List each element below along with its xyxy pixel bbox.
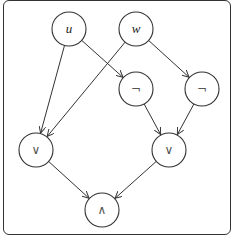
node-label: ¬ (131, 82, 141, 96)
edge-w-to-or1 (47, 42, 125, 136)
node-u: u (52, 12, 86, 46)
circuit-diagram: uw¬¬∨∨∧ (0, 0, 236, 240)
node-w: w (119, 12, 153, 46)
node-or1: ∨ (19, 133, 53, 167)
node-label: ¬ (197, 82, 207, 96)
edge-or2-to-and (115, 161, 156, 198)
node-label: ∨ (32, 143, 41, 157)
edge-w-to-not2 (149, 40, 189, 77)
edge-not2-to-or2 (177, 104, 194, 135)
edge-u-to-not1 (82, 40, 123, 77)
node-label: ∧ (98, 203, 107, 217)
node-and: ∧ (85, 193, 119, 227)
edges-group (41, 40, 194, 198)
edge-or1-to-and (49, 161, 89, 198)
node-label: w (132, 21, 141, 36)
node-or2: ∨ (152, 133, 186, 167)
node-not1: ¬ (119, 72, 153, 106)
node-not2: ¬ (185, 72, 219, 106)
node-label: ∨ (165, 143, 174, 157)
node-label: u (66, 21, 73, 36)
edge-not1-to-or2 (144, 104, 161, 135)
